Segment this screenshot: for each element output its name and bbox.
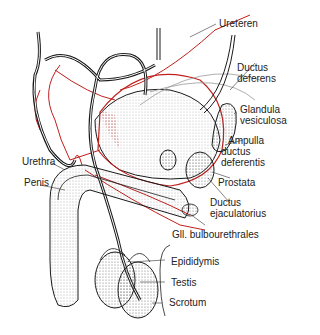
label-ampulla-3: deferentis [221,157,265,168]
label-penis: Penis [24,177,49,188]
label-prostata: Prostata [218,177,255,188]
label-glandula-vesiculosa: Glandula [240,104,280,115]
label-gll-bulbourethrales: Gll. bulbourethrales [172,229,259,240]
label-ductus-ejaculatorius: Ductus [210,197,241,208]
label-ductus-deferens: Ductus [237,62,268,73]
label-ureteren: Ureteren [219,18,258,29]
label-testis: Testis [171,277,197,288]
label-epididymis: Epididymis [171,256,219,267]
label-ductus-ejaculatorius-2: ejaculatorius [210,208,266,219]
label-ampulla-2: ductus [221,146,250,157]
label-urethra: Urethra [22,156,55,167]
label-scrotum: Scrotum [169,297,206,308]
label-ampulla: Ampulla [228,135,264,146]
label-glandula-vesiculosa-2: vesiculosa [240,115,287,126]
testes [95,249,158,318]
label-ductus-deferens-2: deferens [237,73,276,84]
